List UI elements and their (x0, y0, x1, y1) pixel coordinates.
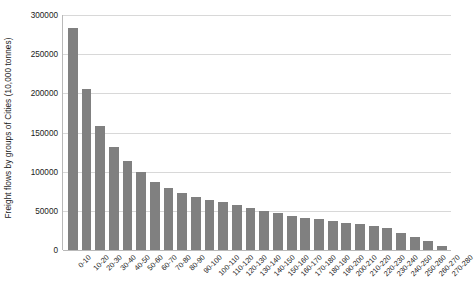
x-tick-slot: 150-160 (271, 251, 285, 303)
x-tick-slot: 250-260 (408, 251, 422, 303)
bar-slot (435, 15, 449, 250)
x-tick-slot: 70-80 (161, 251, 175, 303)
bar-slot (257, 15, 271, 250)
bar[interactable] (423, 241, 433, 250)
x-tick-slot: 0-10 (65, 251, 79, 303)
bar[interactable] (191, 197, 201, 250)
bar[interactable] (68, 28, 78, 250)
y-axis-tick-label: 150000 (31, 128, 58, 137)
y-axis-tick-labels: 050000100000150000200000250000300000 (14, 15, 62, 250)
x-tick-slot: 270-280 (435, 251, 449, 303)
x-tick-slot: 220-230 (367, 251, 381, 303)
bar-slot (107, 15, 121, 250)
bar-slot (203, 15, 217, 250)
bar-slot (121, 15, 135, 250)
bar[interactable] (136, 172, 146, 250)
bar-slot (298, 15, 312, 250)
bar[interactable] (150, 182, 160, 250)
bar-slot (216, 15, 230, 250)
bar[interactable] (82, 89, 92, 250)
x-tick-slot: 130-140 (243, 251, 257, 303)
bar[interactable] (109, 147, 119, 250)
bar[interactable] (259, 211, 269, 250)
x-tick-slot: 200-210 (339, 251, 353, 303)
x-tick-slot: 80-90 (175, 251, 189, 303)
y-axis-tick-label: 250000 (31, 50, 58, 59)
bar[interactable] (328, 221, 338, 250)
bar-slot (80, 15, 94, 250)
bar-slot (421, 15, 435, 250)
bar-slot (244, 15, 258, 250)
bar[interactable] (205, 200, 215, 250)
x-tick-slot: 170-180 (298, 251, 312, 303)
bar[interactable] (355, 224, 365, 250)
bar[interactable] (95, 126, 105, 250)
bar[interactable] (218, 202, 228, 250)
bar-slot (367, 15, 381, 250)
bar-slot (339, 15, 353, 250)
bar[interactable] (123, 161, 133, 250)
x-tick-slot: 260-270 (422, 251, 436, 303)
bar-slot (230, 15, 244, 250)
bar[interactable] (273, 213, 283, 250)
bar[interactable] (369, 226, 379, 250)
y-axis-tick-label: 200000 (31, 89, 58, 98)
x-axis-tick-labels: 0-1010-2020-3030-4040-5050-6060-7070-808… (62, 251, 451, 303)
x-tick-slot: 10-20 (79, 251, 93, 303)
x-tick-slot: 240-250 (394, 251, 408, 303)
x-tick-slot: 20-30 (92, 251, 106, 303)
bar-slot (189, 15, 203, 250)
x-tick-slot: 190-200 (326, 251, 340, 303)
bar-slot (326, 15, 340, 250)
bar[interactable] (164, 188, 174, 250)
x-tick-slot: 160-170 (285, 251, 299, 303)
x-tick-slot: 60-70 (147, 251, 161, 303)
bar-slot (271, 15, 285, 250)
bar-slot (353, 15, 367, 250)
bar[interactable] (341, 223, 351, 250)
x-tick-slot: 40-50 (120, 251, 134, 303)
bars-layer (63, 15, 451, 250)
bar[interactable] (287, 216, 297, 250)
bar-slot (162, 15, 176, 250)
x-tick-slot: 230-240 (381, 251, 395, 303)
x-tick-slot: 180-190 (312, 251, 326, 303)
bar[interactable] (177, 193, 187, 250)
bar-slot (312, 15, 326, 250)
y-axis-tick-label: 100000 (31, 167, 58, 176)
bar-slot (380, 15, 394, 250)
x-tick-slot: 110-120 (216, 251, 230, 303)
x-tick-slot: 90-100 (188, 251, 202, 303)
bar-slot (93, 15, 107, 250)
bar[interactable] (232, 205, 242, 250)
bar-slot (134, 15, 148, 250)
y-axis-tick-label: 50000 (35, 206, 58, 215)
bar[interactable] (396, 233, 406, 250)
x-tick-slot: 100-110 (202, 251, 216, 303)
y-axis-tick-label: 300000 (31, 11, 58, 20)
bar-slot (394, 15, 408, 250)
x-tick-slot: 210-220 (353, 251, 367, 303)
bar[interactable] (300, 218, 310, 250)
plot-area (62, 15, 451, 250)
bar[interactable] (382, 228, 392, 250)
bar[interactable] (246, 208, 256, 250)
bar-slot (175, 15, 189, 250)
bar[interactable] (314, 219, 324, 250)
bar-slot (148, 15, 162, 250)
bar[interactable] (410, 237, 420, 250)
bar[interactable] (437, 246, 447, 250)
bar-slot (285, 15, 299, 250)
bar-slot (408, 15, 422, 250)
bar-slot (66, 15, 80, 250)
x-tick-slot: 30-40 (106, 251, 120, 303)
x-tick-slot: 50-60 (134, 251, 148, 303)
x-tick-slot: 120-130 (230, 251, 244, 303)
x-tick-slot: 140-150 (257, 251, 271, 303)
y-axis-tick-label: 0 (53, 246, 58, 255)
